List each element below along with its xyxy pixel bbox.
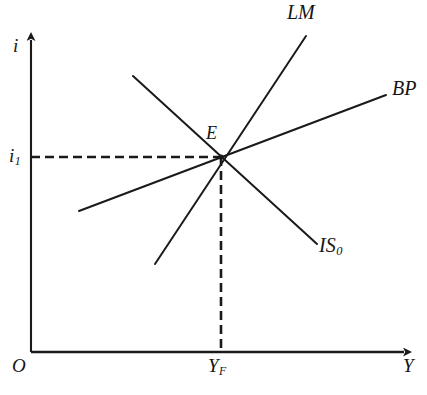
y-axis-label: i xyxy=(13,36,18,55)
lm-curve-label: LM xyxy=(287,2,315,22)
bp-curve-label: BP xyxy=(392,78,416,98)
is-curve-subscript: 0 xyxy=(336,244,343,258)
figure-canvas: i i1 O Y YF E LM BP IS0 xyxy=(0,0,427,395)
x-axis-label: Y xyxy=(403,356,414,375)
is-curve-label: IS0 xyxy=(319,235,342,255)
is-curve-text: IS xyxy=(319,234,336,256)
full-employment-output-text: Y xyxy=(208,355,219,376)
full-employment-output-label: YF xyxy=(208,356,226,375)
equilibrium-point-marker xyxy=(218,154,223,159)
interest-rate-level-label: i1 xyxy=(9,146,21,165)
bp-curve xyxy=(79,95,386,211)
interest-rate-level-subscript: 1 xyxy=(14,155,20,168)
equilibrium-point-label: E xyxy=(206,124,217,142)
figure-caption xyxy=(0,386,427,395)
lm-curve xyxy=(155,36,306,264)
full-employment-output-subscript: F xyxy=(219,365,227,378)
is-lm-bp-diagram xyxy=(0,0,427,395)
origin-label: O xyxy=(12,356,26,375)
